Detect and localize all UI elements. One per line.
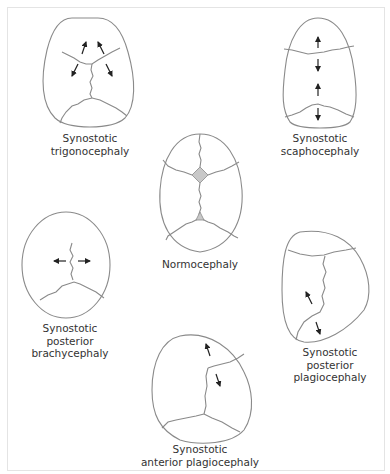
label-line: Synostotic [20,322,120,335]
skull-posterior-plagiocephaly [282,231,369,342]
label-anterior-plagiocephaly: Synostotic anterior plagiocephaly [140,443,260,468]
label-line: anterior plagiocephaly [140,456,260,469]
skull-posterior-brachycephaly [22,212,110,318]
skull-anterior-plagiocephaly [152,335,252,443]
skull-diagrams [0,0,390,474]
skull-normocephaly [160,134,242,252]
label-posterior-brachycephaly: Synostotic posterior brachycephaly [20,322,120,360]
label-line: trigonocephaly [40,145,140,158]
label-posterior-plagiocephaly: Synostotic posterior plagiocephaly [280,346,380,384]
arrow-icons-trigonocephaly [72,42,112,76]
label-scaphocephaly: Synostotic scaphocephaly [270,132,370,157]
label-trigonocephaly: Synostotic trigonocephaly [40,132,140,157]
label-normocephaly: Normocephaly [150,258,250,271]
label-line: Synostotic [140,443,260,456]
skull-scaphocephaly [283,18,356,128]
label-line: plagiocephaly [280,371,380,384]
label-line: brachycephaly [20,347,120,360]
label-line: posterior [20,335,120,348]
label-line: scaphocephaly [270,145,370,158]
skull-trigonocephaly [43,18,134,127]
label-line: Synostotic [270,132,370,145]
label-line: Synostotic [280,346,380,359]
label-line: posterior [280,359,380,372]
label-line: Synostotic [40,132,140,145]
label-line: Normocephaly [150,258,250,271]
